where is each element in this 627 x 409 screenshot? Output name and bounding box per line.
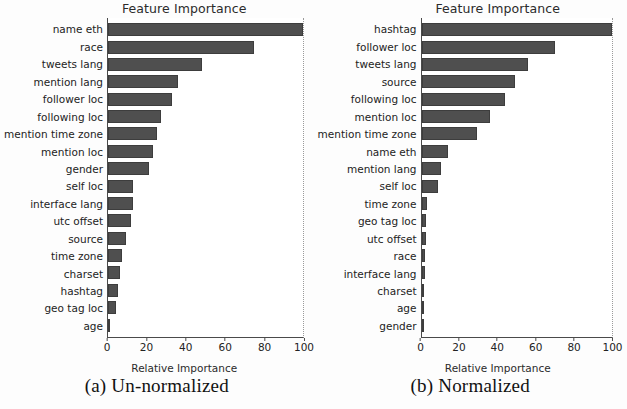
y-axis-labels: name ethracetweets langmention langfollo…	[0, 18, 106, 338]
bar-row	[422, 144, 612, 158]
y-tick-label-row: interface lang	[314, 267, 420, 281]
captions-row: (a) Un-normalized (b) Normalized	[0, 368, 627, 409]
bar-row	[422, 57, 612, 71]
bar	[108, 93, 172, 106]
bar	[108, 75, 178, 88]
bar-row	[422, 283, 612, 297]
bar	[422, 58, 528, 71]
y-tick-label-row: gender	[314, 319, 420, 333]
bar-row	[108, 318, 303, 332]
y-tick-label: mention time zone	[4, 129, 103, 140]
y-tick-label: tweets lang	[355, 59, 416, 70]
bar	[422, 232, 426, 245]
bar-row	[108, 283, 303, 297]
y-tick-label-row: source	[0, 232, 106, 246]
y-tick-label: mention time zone	[318, 129, 417, 140]
caption-subfigure-a: (a) Un-normalized	[0, 368, 314, 409]
y-tick-label: mention loc	[41, 147, 103, 158]
bar-row	[108, 75, 303, 89]
bar-row	[422, 214, 612, 228]
bar-row	[108, 162, 303, 176]
y-tick-label-row: mention time zone	[0, 127, 106, 141]
bar-row	[422, 196, 612, 210]
y-tick-label-row: mention time zone	[314, 127, 420, 141]
chart-title: Feature Importance	[0, 1, 314, 16]
bar-row	[422, 249, 612, 263]
bar	[108, 110, 161, 123]
y-tick-label: time zone	[364, 199, 416, 210]
y-tick-label: interface lang	[30, 199, 103, 210]
chart-title: Feature Importance	[314, 1, 627, 16]
y-tick-label-row: hashtag	[314, 23, 420, 37]
bar-row	[108, 196, 303, 210]
x-tick: 40	[491, 338, 504, 353]
x-tick-label: 0	[417, 342, 424, 353]
y-tick-label-row: time zone	[314, 197, 420, 211]
y-tick-label: utc offset	[53, 216, 103, 227]
y-tick-label: gender	[66, 164, 103, 175]
y-tick-label: charset	[64, 269, 103, 280]
bar-row	[108, 127, 303, 141]
y-tick-label: mention lang	[347, 164, 416, 175]
y-tick-label-row: mention lang	[0, 75, 106, 89]
y-tick-label-row: mention lang	[314, 162, 420, 176]
bar	[422, 319, 424, 332]
x-tick-label: 0	[104, 342, 111, 353]
bar-row	[108, 144, 303, 158]
y-tick-label: follower loc	[43, 94, 103, 105]
bar	[422, 197, 428, 210]
bar	[422, 162, 441, 175]
bar-row	[422, 75, 612, 89]
y-tick-label: hashtag	[61, 286, 103, 297]
bar	[108, 232, 126, 245]
y-tick-label: charset	[377, 286, 416, 297]
x-tick: 100	[602, 338, 622, 353]
bar	[108, 162, 149, 175]
y-tick-label: mention lang	[34, 77, 103, 88]
y-tick-label-row: name eth	[0, 23, 106, 37]
bar-row	[422, 318, 612, 332]
bar	[108, 284, 118, 297]
bar	[108, 41, 254, 54]
x-tick: 20	[452, 338, 465, 353]
y-tick-label: self loc	[66, 181, 103, 192]
x-tick: 80	[258, 338, 271, 353]
x-axis: 020406080100	[421, 338, 613, 364]
bar	[108, 58, 202, 71]
y-tick-label-row: geo tag loc	[0, 302, 106, 316]
y-tick-label: age	[397, 303, 417, 314]
y-tick-label-row: mention loc	[314, 110, 420, 124]
x-tick-label: 100	[294, 342, 314, 353]
bar-row	[422, 127, 612, 141]
bar	[422, 301, 424, 314]
bar	[108, 319, 110, 332]
bar-row	[422, 23, 612, 37]
figure-container: Feature Importance name ethracetweets la…	[0, 0, 627, 409]
bar	[108, 214, 131, 227]
bar-row	[108, 249, 303, 263]
bar	[108, 180, 133, 193]
bar-row	[422, 301, 612, 315]
x-tick: 40	[179, 338, 192, 353]
y-tick-label-row: follower loc	[314, 40, 420, 54]
y-tick-label: name eth	[366, 147, 416, 158]
bar-row	[422, 162, 612, 176]
bar	[422, 214, 427, 227]
bar	[422, 180, 438, 193]
x-tick-label: 60	[529, 342, 542, 353]
plot-wrapper: hashtagfollower loctweets langsourcefoll…	[314, 18, 627, 340]
y-tick-label-row: age	[314, 302, 420, 316]
y-tick-label: race	[394, 251, 417, 262]
bar	[108, 127, 157, 140]
y-tick-label-row: self loc	[314, 180, 420, 194]
caption-subfigure-b: (b) Normalized	[314, 368, 627, 409]
bar-row	[422, 179, 612, 193]
x-tick-label: 80	[567, 342, 580, 353]
y-tick-label: self loc	[380, 181, 417, 192]
bar	[422, 75, 515, 88]
y-tick-label: geo tag loc	[358, 216, 417, 227]
plot-wrapper: name ethracetweets langmention langfollo…	[0, 18, 314, 340]
bar-row	[108, 301, 303, 315]
bar-row	[108, 23, 303, 37]
x-tick-label: 20	[452, 342, 465, 353]
